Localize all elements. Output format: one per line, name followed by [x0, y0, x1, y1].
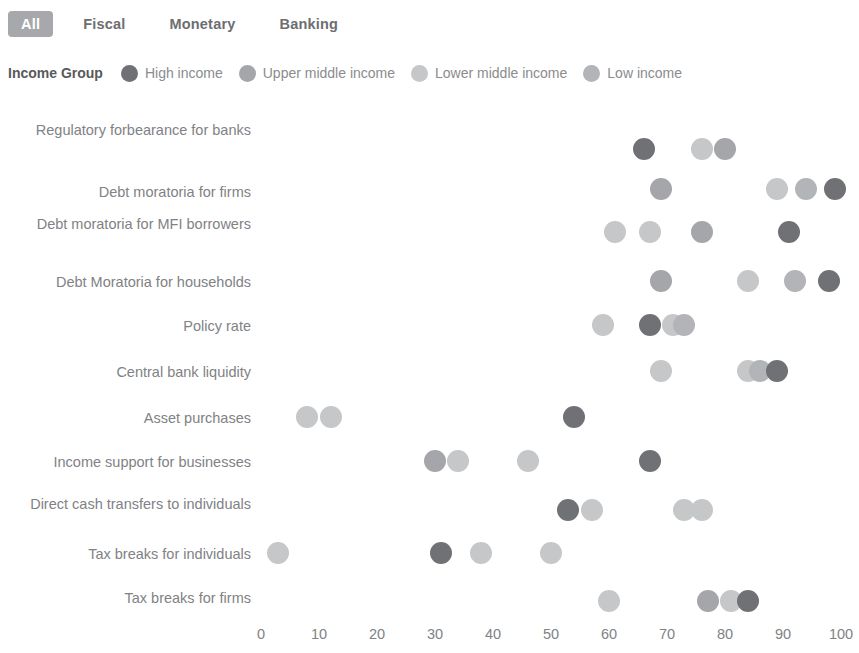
data-point-dot[interactable]	[447, 450, 469, 472]
x-tick-label: 10	[311, 626, 327, 642]
legend-swatch-circle-icon	[239, 65, 256, 82]
legend-item-list[interactable]: High incomeUpper middle incomeLower midd…	[121, 65, 698, 82]
data-point-dot[interactable]	[633, 138, 655, 160]
row-category-label: Direct cash transfers to individuals	[0, 494, 251, 515]
x-tick-label: 100	[829, 626, 853, 642]
x-tick-label: 60	[601, 626, 617, 642]
x-tick-label: 20	[369, 626, 385, 642]
data-point-dot[interactable]	[691, 499, 713, 521]
row-category-label: Debt Moratoria for households	[0, 272, 251, 293]
data-point-dot[interactable]	[795, 178, 817, 200]
data-point-dot[interactable]	[267, 542, 289, 564]
data-point-dot[interactable]	[650, 270, 672, 292]
data-point-dot[interactable]	[824, 178, 846, 200]
x-tick-label: 0	[257, 626, 265, 642]
data-point-dot[interactable]	[604, 221, 626, 243]
x-tick-label: 70	[659, 626, 675, 642]
tab-banking[interactable]: Banking	[266, 11, 353, 37]
legend-item-label: High income	[145, 65, 223, 81]
data-point-dot[interactable]	[581, 499, 603, 521]
x-axis-tick-labels: 0102030405060708090100	[0, 626, 859, 653]
tab-fiscal[interactable]: Fiscal	[69, 11, 139, 37]
row-category-label: Regulatory forbearance for banks	[0, 120, 251, 141]
data-point-dot[interactable]	[650, 178, 672, 200]
data-point-dot[interactable]	[639, 450, 661, 472]
data-point-dot[interactable]	[563, 406, 585, 428]
row-category-label: Central bank liquidity	[0, 362, 251, 383]
data-point-dot[interactable]	[737, 270, 759, 292]
data-point-dot[interactable]	[517, 450, 539, 472]
data-point-dot[interactable]	[737, 590, 759, 612]
legend-item-low-income[interactable]: Low income	[583, 65, 682, 82]
row-category-label: Policy rate	[0, 316, 251, 337]
data-point-dot[interactable]	[784, 270, 806, 292]
data-point-dot[interactable]	[714, 138, 736, 160]
data-point-dot[interactable]	[557, 499, 579, 521]
legend-item-label: Low income	[607, 65, 682, 81]
row-category-label: Debt moratoria for MFI borrowers	[0, 214, 251, 235]
legend-swatch-circle-icon	[583, 65, 600, 82]
x-tick-label: 80	[717, 626, 733, 642]
data-point-dot[interactable]	[540, 542, 562, 564]
data-point-dot[interactable]	[673, 314, 695, 336]
x-tick-label: 40	[485, 626, 501, 642]
legend-item-high-income[interactable]: High income	[121, 65, 223, 82]
data-point-dot[interactable]	[639, 221, 661, 243]
data-point-dot[interactable]	[778, 221, 800, 243]
x-tick-label: 50	[543, 626, 559, 642]
legend-item-lower-middle-income[interactable]: Lower middle income	[411, 65, 567, 82]
x-tick-label: 90	[775, 626, 791, 642]
data-point-dot[interactable]	[691, 221, 713, 243]
data-point-dot[interactable]	[766, 178, 788, 200]
x-tick-label: 30	[427, 626, 443, 642]
dot-plot-area: Regulatory forbearance for banksDebt mor…	[0, 104, 859, 653]
row-category-label: Debt moratoria for firms	[0, 182, 251, 203]
row-category-label: Tax breaks for firms	[0, 588, 251, 609]
chart-legend: Income Group High incomeUpper middle inc…	[8, 60, 698, 86]
tab-all[interactable]: All	[8, 11, 53, 37]
data-point-dot[interactable]	[592, 314, 614, 336]
data-point-dot[interactable]	[697, 590, 719, 612]
data-point-dot[interactable]	[430, 542, 452, 564]
row-category-label: Tax breaks for individuals	[0, 544, 251, 565]
legend-swatch-circle-icon	[411, 65, 428, 82]
data-point-dot[interactable]	[766, 360, 788, 382]
legend-item-label: Upper middle income	[263, 65, 395, 81]
data-point-dot[interactable]	[296, 406, 318, 428]
data-point-dot[interactable]	[639, 314, 661, 336]
data-point-dot[interactable]	[320, 406, 342, 428]
legend-item-label: Lower middle income	[435, 65, 567, 81]
data-point-dot[interactable]	[424, 450, 446, 472]
legend-item-upper-middle-income[interactable]: Upper middle income	[239, 65, 395, 82]
tab-monetary[interactable]: Monetary	[155, 11, 249, 37]
view-tab-bar[interactable]: AllFiscalMonetaryBanking	[8, 8, 352, 40]
row-category-label: Asset purchases	[0, 408, 251, 429]
row-category-label: Income support for businesses	[0, 452, 251, 473]
legend-title: Income Group	[8, 65, 103, 81]
data-point-dot[interactable]	[598, 590, 620, 612]
legend-swatch-circle-icon	[121, 65, 138, 82]
data-point-dot[interactable]	[691, 138, 713, 160]
data-point-dot[interactable]	[470, 542, 492, 564]
data-point-dot[interactable]	[818, 270, 840, 292]
data-point-dot[interactable]	[650, 360, 672, 382]
